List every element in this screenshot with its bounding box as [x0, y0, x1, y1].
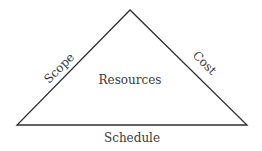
- edge-label-schedule: Schedule: [104, 131, 160, 145]
- center-label-resources: Resources: [99, 73, 162, 87]
- project-triangle-diagram: Scope Cost Resources Schedule: [0, 0, 262, 151]
- edge-label-scope: Scope: [41, 50, 77, 86]
